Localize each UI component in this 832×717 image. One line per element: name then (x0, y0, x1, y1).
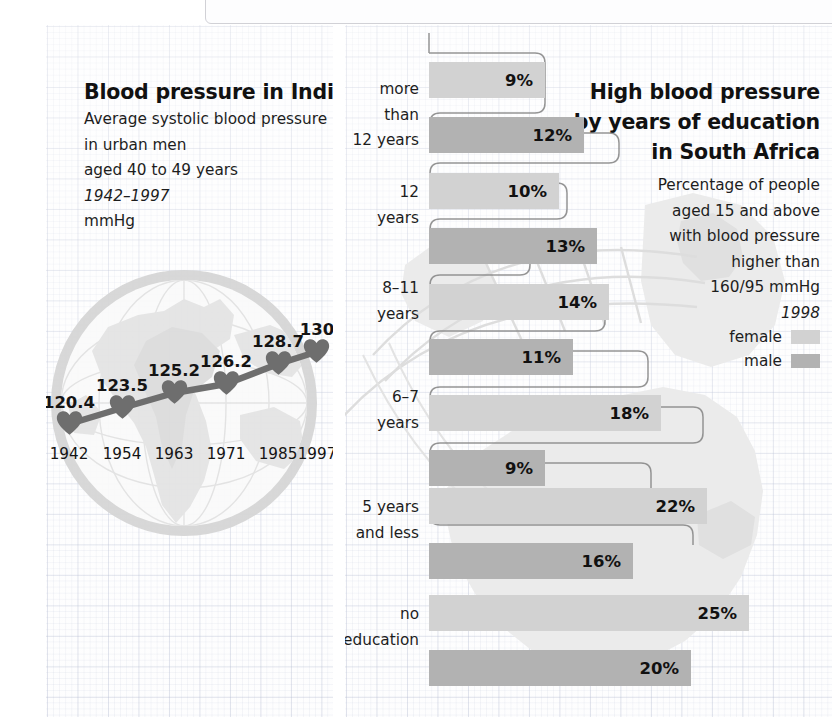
south-africa-bar-chart: more than 12 years 9% 12% 12 years 10% 1… (345, 25, 832, 717)
bar-value-female-1: 9% (505, 71, 545, 90)
cat-2-line-1: 12 (345, 180, 419, 206)
cat-1-line-1: more (345, 77, 419, 103)
left-panel-india: Blood pressure in India Average systolic… (46, 25, 333, 717)
bar-male-4: 9% (429, 450, 545, 486)
bar-female-5: 22% (429, 488, 707, 524)
bar-value-female-4: 18% (610, 404, 662, 423)
bar-value-male-6: 20% (640, 659, 692, 678)
bar-value-female-3: 14% (558, 293, 610, 312)
line-value-1954: 123.5 (96, 376, 148, 395)
right-panel-south-africa: High blood pressure by years of educatio… (345, 25, 832, 717)
bar-category-label-3: 8–11 years (345, 276, 424, 327)
bar-value-male-5: 16% (582, 552, 634, 571)
bar-category-label-4: 6–7 years (345, 385, 424, 436)
bar-value-male-2: 13% (546, 237, 598, 256)
cat-3-line-2: years (345, 302, 419, 328)
cat-5-line-1: 5 years (345, 495, 419, 521)
cat-3-line-1: 8–11 (345, 276, 419, 302)
india-line-chart: 120.4 123.5 125.2 126.2 128.7 130 1942 1… (46, 25, 333, 717)
bar-value-male-4: 9% (505, 459, 545, 478)
bar-female-4: 18% (429, 395, 661, 431)
line-tick-1985: 1985 (259, 445, 298, 463)
line-tick-1997: 1997 (298, 445, 333, 463)
infographic-page: Blood pressure in India Average systolic… (0, 0, 832, 717)
heart-marker-1997 (304, 339, 329, 363)
top-ghost-frame (205, 0, 832, 24)
bar-category-label-2: 12 years (345, 180, 424, 231)
bar-female-1: 9% (429, 62, 545, 98)
cat-1-line-2: than (345, 103, 419, 129)
cat-1-line-3: 12 years (345, 128, 419, 154)
line-value-1963: 125.2 (148, 361, 200, 380)
cat-6-line-1: no (345, 602, 419, 628)
bar-category-label-1: more than 12 years (345, 77, 424, 154)
cat-5-line-2: and less (345, 521, 419, 547)
heart-marker-1942 (57, 411, 82, 435)
bar-male-2: 13% (429, 228, 597, 264)
bar-value-female-6: 25% (698, 604, 750, 623)
bar-male-6: 20% (429, 650, 691, 686)
heart-marker-1963 (162, 380, 187, 404)
bar-female-2: 10% (429, 173, 559, 209)
bar-male-3: 11% (429, 339, 573, 375)
heart-marker-1971 (214, 371, 239, 395)
heart-marker-1985 (266, 351, 291, 375)
cat-4-line-2: years (345, 411, 419, 437)
cat-2-line-2: years (345, 206, 419, 232)
bar-female-6: 25% (429, 595, 749, 631)
line-tick-1954: 1954 (103, 445, 142, 463)
line-value-1997: 130 (300, 320, 333, 339)
line-tick-1971: 1971 (207, 445, 246, 463)
heart-marker-1954 (110, 395, 135, 419)
cat-4-line-1: 6–7 (345, 385, 419, 411)
line-value-1985: 128.7 (252, 332, 304, 351)
bar-category-label-5: 5 years and less (345, 495, 424, 546)
bar-male-1: 12% (429, 117, 584, 153)
line-tick-1963: 1963 (155, 445, 194, 463)
bar-value-female-5: 22% (656, 497, 708, 516)
bar-category-label-6: no education (345, 602, 424, 653)
bar-value-female-2: 10% (508, 182, 560, 201)
bar-female-3: 14% (429, 284, 609, 320)
cat-6-line-2: education (345, 628, 419, 654)
line-tick-1942: 1942 (50, 445, 89, 463)
bar-value-male-1: 12% (533, 126, 585, 145)
line-value-1971: 126.2 (200, 352, 252, 371)
bar-value-male-3: 11% (522, 348, 574, 367)
line-value-1942: 120.4 (46, 393, 95, 412)
bar-male-5: 16% (429, 543, 633, 579)
